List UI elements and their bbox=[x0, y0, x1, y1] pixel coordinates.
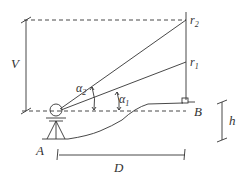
d-tick-left bbox=[57, 149, 58, 160]
ground-profile bbox=[68, 103, 183, 139]
label-alpha2: α2 bbox=[76, 81, 86, 97]
d-tick-right bbox=[184, 149, 185, 160]
label-b: B bbox=[194, 104, 202, 119]
point-b-marker bbox=[182, 98, 188, 103]
label-r2: r2 bbox=[190, 13, 199, 29]
leveling-diagram: V α2 α1 r2 r1 A B h D bbox=[0, 0, 248, 176]
label-r1: r1 bbox=[190, 55, 199, 71]
instrument-telescope bbox=[50, 104, 62, 116]
angle-arc-alpha2 bbox=[92, 87, 95, 110]
tripod-leg-left bbox=[47, 121, 56, 139]
label-v: V bbox=[11, 56, 21, 71]
diagram-canvas: V α2 α1 r2 r1 A B h D bbox=[0, 0, 248, 176]
label-d: D bbox=[113, 160, 124, 175]
tripod-leg-right bbox=[56, 121, 65, 139]
label-a: A bbox=[35, 143, 44, 158]
label-alpha1: α1 bbox=[119, 92, 129, 108]
label-h: h bbox=[229, 113, 236, 128]
